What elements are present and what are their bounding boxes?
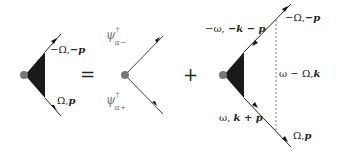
lower-outer-label: Ω,p <box>293 131 311 141</box>
upper-inner-label: −ω, −k − p <box>205 24 266 34</box>
spin-subscript: α− <box>114 38 126 47</box>
label-momentum: −p <box>70 44 85 55</box>
left-upper-label: −Ω,−p <box>50 45 85 55</box>
interaction-label: ω − Ω,k <box>279 69 320 79</box>
vertex-dot <box>20 71 28 79</box>
plus-sign: + <box>183 66 198 84</box>
label-frequency: ω, <box>219 112 234 123</box>
bare-vertex <box>121 36 163 114</box>
label-frequency: Ω, <box>57 95 68 106</box>
label-momentum: −k − p <box>228 23 266 34</box>
upper-field-label: ψ†α− <box>106 28 127 44</box>
label-frequency: −ω, <box>205 23 228 34</box>
upper-outer-label: −Ω,−p <box>285 13 320 23</box>
lower-leg-line <box>125 75 163 114</box>
label-momentum: −p <box>305 12 320 23</box>
label-frequency: −Ω, <box>50 44 70 55</box>
vertex-dot <box>121 71 129 79</box>
dagger-superscript: † <box>115 90 119 99</box>
label-frequency: ω − Ω, <box>279 68 313 79</box>
label-momentum: k <box>313 68 320 79</box>
label-momentum: k + p <box>234 112 263 123</box>
label-frequency: Ω, <box>293 130 304 141</box>
left-lower-label: Ω,p <box>57 96 75 106</box>
lower-field-label: ψ†α+ <box>106 93 127 109</box>
equals-sign: = <box>80 66 95 84</box>
lower-inner-label: ω, k + p <box>219 113 263 123</box>
spin-subscript: α+ <box>114 103 126 112</box>
label-frequency: −Ω, <box>285 12 305 23</box>
dagger-superscript: † <box>115 25 119 34</box>
label-momentum: p <box>68 95 75 106</box>
vertex-dot <box>219 71 227 79</box>
label-momentum: p <box>304 130 311 141</box>
